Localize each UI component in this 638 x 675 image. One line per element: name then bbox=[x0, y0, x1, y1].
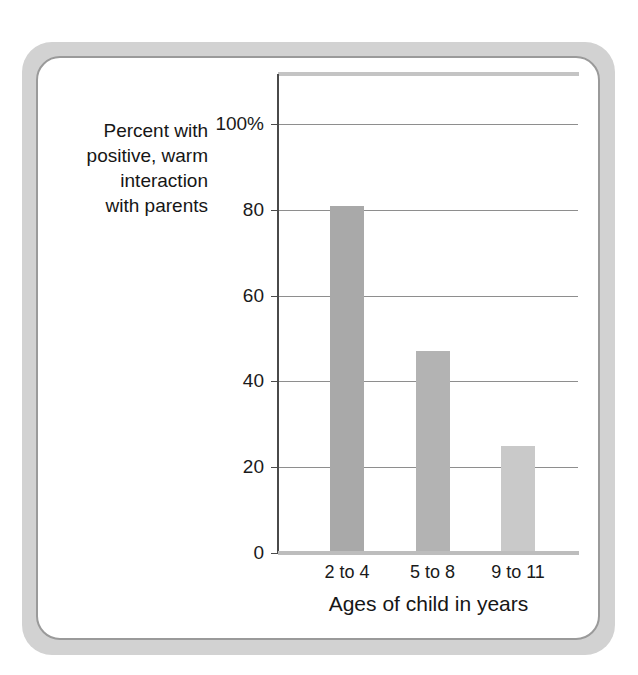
y-axis-title-line: positive, warm bbox=[52, 143, 208, 168]
x-tick-label-9-to-11: 9 to 11 bbox=[491, 562, 545, 583]
y-axis-title: Percent withpositive, warminteractionwit… bbox=[52, 118, 208, 218]
x-tick-label-2-to-4: 2 to 4 bbox=[324, 562, 369, 583]
x-axis-baseline bbox=[278, 551, 579, 555]
bar-2-to-4[interactable] bbox=[330, 206, 364, 553]
y-axis-title-line: with parents bbox=[52, 193, 208, 218]
y-tick-0 bbox=[271, 553, 278, 554]
bar-chart: 020406080100% 2 to 45 to 89 to 11 Ages o… bbox=[0, 0, 638, 675]
bar-5-to-8[interactable] bbox=[416, 351, 450, 553]
x-tick-label-5-to-8: 5 to 8 bbox=[410, 562, 455, 583]
y-axis-title-line: interaction bbox=[52, 168, 208, 193]
bar-9-to-11[interactable] bbox=[501, 446, 535, 553]
bars-group bbox=[0, 0, 638, 553]
y-axis-title-line: Percent with bbox=[52, 118, 208, 143]
x-axis-title: Ages of child in years bbox=[278, 592, 579, 616]
